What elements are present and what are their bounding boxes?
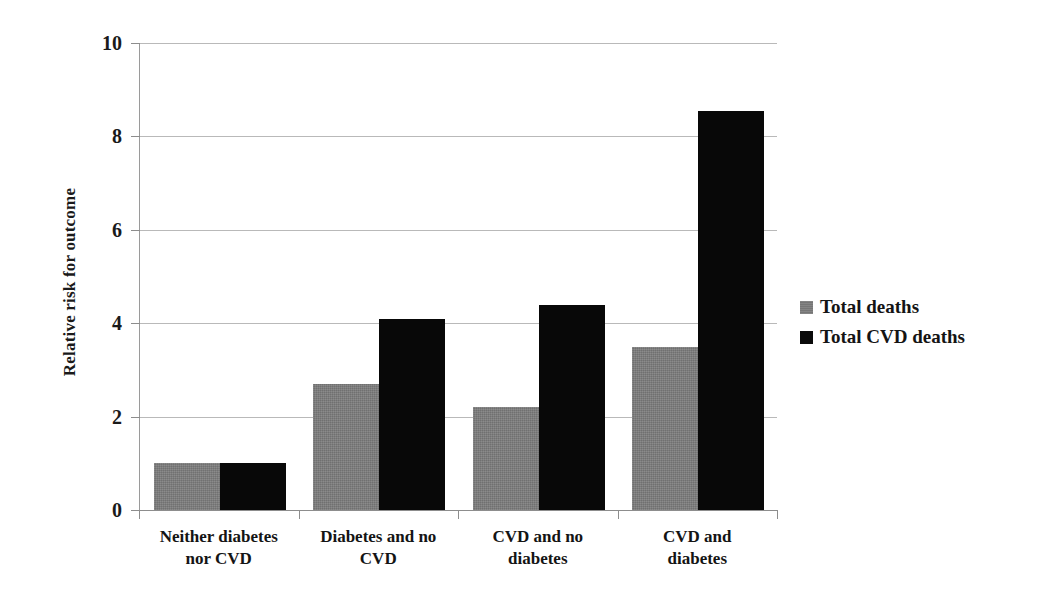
y-tick-label-0: 0: [78, 500, 122, 520]
gridline-6: [139, 230, 777, 231]
x-axis-label-2-line-0: CVD and no: [458, 526, 618, 548]
y-tick-mark-2: [131, 417, 140, 418]
x-tick-mark-2: [458, 510, 459, 519]
y-tick-label-4: 4: [78, 313, 122, 333]
plot-area: [139, 43, 777, 510]
legend-swatch-icon-1: [800, 331, 813, 344]
bar-3-1[interactable]: [698, 111, 764, 510]
legend-item-0[interactable]: Total deaths: [800, 292, 1015, 322]
x-axis-label-3: CVD anddiabetes: [618, 526, 778, 570]
x-axis-label-2-line-1: diabetes: [458, 548, 618, 570]
legend-swatch-icon-0: [800, 301, 813, 314]
y-tick-label-8: 8: [78, 126, 122, 146]
bar-1-0[interactable]: [313, 384, 379, 510]
bar-2-1[interactable]: [539, 305, 605, 510]
gridline-4: [139, 323, 777, 324]
bar-chart-figure: Relative risk for outcome 0246810 Neithe…: [0, 0, 1037, 615]
y-tick-label-2: 2: [78, 407, 122, 427]
x-axis-label-1-line-0: Diabetes and no: [299, 526, 459, 548]
y-tick-mark-8: [131, 136, 140, 137]
y-axis-title: Relative risk for outcome: [60, 152, 80, 412]
gridline-8: [139, 136, 777, 137]
chart-legend: Total deathsTotal CVD deaths: [800, 292, 1015, 352]
bar-1-1[interactable]: [379, 319, 445, 510]
x-tick-mark-0: [139, 510, 140, 519]
x-tick-mark-1: [299, 510, 300, 519]
x-axis-label-3-line-0: CVD and: [618, 526, 778, 548]
legend-item-1[interactable]: Total CVD deaths: [800, 322, 1015, 352]
bar-3-0[interactable]: [632, 347, 698, 510]
bar-2-0[interactable]: [473, 407, 539, 510]
x-axis-label-0-line-0: Neither diabetes: [139, 526, 299, 548]
y-tick-label-6: 6: [78, 220, 122, 240]
gridline-10: [139, 43, 777, 44]
x-tick-mark-3: [618, 510, 619, 519]
legend-label-1: Total CVD deaths: [820, 326, 965, 348]
y-tick-mark-4: [131, 323, 140, 324]
x-axis-label-0-line-1: nor CVD: [139, 548, 299, 570]
x-axis-label-0: Neither diabetesnor CVD: [139, 526, 299, 570]
x-axis-label-2: CVD and nodiabetes: [458, 526, 618, 570]
bar-0-0[interactable]: [154, 463, 220, 510]
x-axis-label-3-line-1: diabetes: [618, 548, 778, 570]
bar-0-1[interactable]: [220, 463, 286, 510]
x-axis-label-1: Diabetes and noCVD: [299, 526, 459, 570]
x-tick-mark-4: [777, 510, 778, 519]
y-tick-mark-6: [131, 230, 140, 231]
y-tick-label-10: 10: [78, 33, 122, 53]
x-axis-label-1-line-1: CVD: [299, 548, 459, 570]
y-tick-mark-10: [131, 43, 140, 44]
legend-label-0: Total deaths: [820, 296, 919, 318]
x-axis-labels: Neither diabetesnor CVDDiabetes and noCV…: [139, 526, 777, 588]
